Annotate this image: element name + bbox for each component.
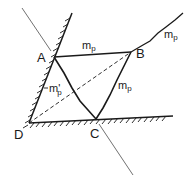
label-point-B: B [136, 46, 145, 61]
floor-support [29, 116, 173, 128]
thin-line-upper-left [22, 8, 51, 51]
svg-text:mp: mp [82, 39, 96, 53]
svg-text:mp: mp [118, 79, 132, 93]
thin-line-lower-right [99, 124, 133, 175]
label-point-A: A [37, 50, 46, 65]
label-mp-prime-left: m'p [44, 82, 62, 97]
svg-text:mp: mp [164, 28, 178, 42]
label-point-C: C [90, 126, 99, 141]
yield-line-diagram: A B C D mp mp mp m'p [0, 0, 189, 186]
svg-text:m'p: m'p [49, 82, 62, 97]
left-wall-support [23, 13, 72, 128]
label-mp-top: mp [82, 39, 96, 53]
label-mp-right-extension: mp [164, 28, 178, 42]
label-mp-bc: mp [118, 79, 132, 93]
label-point-D: D [14, 127, 23, 142]
